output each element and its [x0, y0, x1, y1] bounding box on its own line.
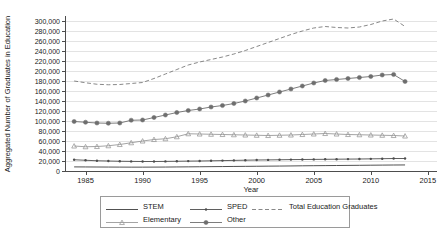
data-point: [175, 110, 179, 114]
data-point: [186, 108, 190, 112]
plot-area: 020,00040,00060,00080,000100,000120,0001…: [65, 16, 437, 171]
data-point: [357, 75, 361, 79]
data-point: [210, 160, 212, 162]
data-point: [323, 78, 327, 82]
series-line: [74, 134, 405, 147]
y-tick-label: 300,000: [35, 18, 60, 25]
x-tick-mark: [143, 171, 144, 175]
x-tick-mark: [86, 171, 87, 175]
data-point: [392, 72, 396, 76]
legend-swatch-icon: [251, 201, 285, 212]
data-point: [244, 159, 246, 161]
y-tick-label: 40,000: [39, 148, 60, 155]
data-point: [176, 160, 178, 162]
legend-item-total-education-graduates[interactable]: Total Education Graduates: [251, 201, 377, 212]
data-point: [119, 160, 121, 162]
data-point: [118, 121, 122, 125]
legend-item-sped[interactable]: SPED: [189, 201, 247, 212]
x-axis-line: 1985199019952000200520102015: [65, 171, 437, 172]
x-tick-label: 2010: [362, 177, 379, 185]
data-point: [380, 73, 384, 77]
y-axis-line: [65, 16, 66, 171]
y-tick-label: 220,000: [35, 58, 60, 65]
data-point: [163, 113, 167, 117]
data-point: [198, 107, 202, 111]
data-point: [198, 160, 200, 162]
data-point: [96, 160, 98, 162]
legend-swatch-icon: [189, 201, 223, 212]
x-tick-label: 1995: [191, 177, 208, 185]
legend-label: Total Education Graduates: [289, 203, 377, 211]
y-tick-label: 60,000: [39, 138, 60, 145]
data-point: [300, 84, 304, 88]
data-point: [205, 208, 207, 210]
legend-entries: STEMSPEDTotal Education GraduatesElement…: [101, 197, 349, 227]
data-point: [381, 158, 383, 160]
data-point: [130, 160, 132, 162]
legend-swatch-icon: [105, 214, 139, 225]
y-tick-label: 0: [56, 168, 60, 175]
legend-label: STEM: [143, 203, 164, 211]
y-axis-title: Aggregated Number of Graduates in Educat…: [2, 16, 14, 171]
x-tick-mark: [428, 171, 429, 175]
data-point: [312, 81, 316, 85]
series-other: [72, 72, 407, 125]
legend-swatch-icon: [105, 201, 139, 212]
series-layer: [65, 16, 437, 171]
data-point: [152, 115, 156, 119]
data-point: [209, 105, 213, 109]
data-point: [324, 158, 326, 160]
y-tick-label: 20,000: [39, 158, 60, 165]
legend: STEMSPEDTotal Education GraduatesElement…: [100, 196, 350, 228]
data-point: [256, 159, 258, 161]
data-point: [290, 158, 292, 160]
data-point: [369, 74, 373, 78]
y-tick-label: 100,000: [35, 118, 60, 125]
x-tick-label: 1985: [77, 177, 94, 185]
data-point: [313, 158, 315, 160]
x-tick-label: 2000: [248, 177, 265, 185]
legend-item-elementary[interactable]: Elementary: [105, 214, 181, 225]
y-tick-label: 240,000: [35, 48, 60, 55]
series-line: [74, 19, 405, 85]
data-point: [204, 220, 208, 224]
data-point: [164, 160, 166, 162]
legend-item-stem[interactable]: STEM: [105, 201, 164, 212]
data-point: [129, 118, 133, 122]
y-tick-label: 200,000: [35, 68, 60, 75]
data-point: [83, 120, 87, 124]
data-point: [187, 160, 189, 162]
data-point: [404, 157, 406, 159]
x-axis-title: Year: [65, 186, 437, 194]
series-line: [74, 159, 405, 162]
legend-item-other[interactable]: Other: [189, 214, 246, 225]
legend-swatch-icon: [189, 214, 223, 225]
y-tick-label: 80,000: [39, 128, 60, 135]
legend-label: Other: [227, 216, 246, 224]
x-tick-mark: [200, 171, 201, 175]
data-point: [153, 160, 155, 162]
series-line: [74, 165, 405, 167]
x-tick-mark: [257, 171, 258, 175]
line-chart: Aggregated Number of Graduates in Educat…: [0, 0, 448, 237]
data-point: [267, 159, 269, 161]
data-point: [370, 158, 372, 160]
y-tick-label: 180,000: [35, 78, 60, 85]
x-tick-label: 2015: [420, 177, 437, 185]
data-point: [255, 96, 259, 100]
data-point: [220, 103, 224, 107]
data-point: [289, 87, 293, 91]
data-point: [347, 158, 349, 160]
y-tick-label: 260,000: [35, 38, 60, 45]
data-point: [277, 90, 281, 94]
legend-label: SPED: [227, 203, 247, 211]
y-tick-label: 120,000: [35, 108, 60, 115]
series-total-education-graduates: [74, 19, 405, 85]
data-point: [266, 93, 270, 97]
series-elementary: [72, 131, 408, 149]
data-point: [72, 119, 76, 123]
data-point: [334, 77, 338, 81]
data-point: [233, 159, 235, 161]
data-point: [403, 79, 407, 83]
y-tick-label: 140,000: [35, 98, 60, 105]
